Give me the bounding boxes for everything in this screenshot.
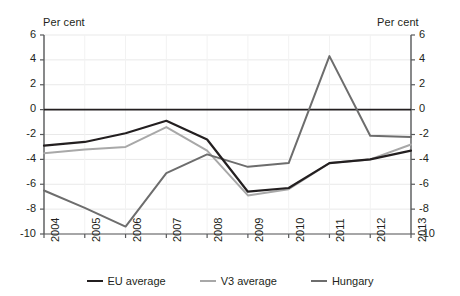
legend-item-label: V3 average	[221, 275, 277, 287]
y-axis-tick-label: -2	[14, 127, 36, 139]
y-axis-tick-label: 4	[14, 52, 36, 64]
chart-figure: Per cent Per cent 6420-2-4-6-8-10 6420-2…	[0, 0, 460, 296]
series-line-eu-average	[44, 121, 411, 192]
left-axis-unit-label: Per cent	[43, 16, 85, 28]
legend-line-icon	[311, 280, 327, 282]
x-axis-tick-label: 2009	[253, 218, 265, 242]
y-axis-tick-label: -10	[14, 227, 36, 239]
legend-item[interactable]: Hungary	[311, 275, 374, 287]
x-axis-tick-label: 2011	[334, 218, 346, 242]
x-axis-tick-label: 2007	[171, 218, 183, 242]
y-axis-tick-label-right: 6	[419, 28, 441, 40]
series-line-hungary	[44, 56, 411, 226]
x-axis-tick-label: 2006	[131, 218, 143, 242]
y-axis-tick-label: 6	[14, 28, 36, 40]
legend-item-label: Hungary	[332, 275, 374, 287]
y-axis-tick-label: 0	[14, 102, 36, 114]
y-axis-tick-label-right: 0	[419, 102, 441, 114]
right-axis-unit-label: Per cent	[377, 16, 419, 28]
legend-line-icon	[200, 280, 216, 282]
x-axis-tick-label: 2012	[375, 218, 387, 242]
y-axis-tick-label-right: -6	[419, 177, 441, 189]
x-axis-tick-label: 2005	[90, 218, 102, 242]
plot-area	[0, 0, 460, 296]
y-axis-tick-label: 2	[14, 77, 36, 89]
y-axis-tick-label-right: 4	[419, 52, 441, 64]
y-axis-tick-label-right: 2	[419, 77, 441, 89]
x-axis-tick-label: 2004	[49, 218, 61, 242]
legend-line-icon	[87, 280, 103, 282]
y-axis-tick-label-right: -2	[419, 127, 441, 139]
y-axis-tick-label: -8	[14, 202, 36, 214]
x-axis-tick-label: 2008	[212, 218, 224, 242]
x-axis-tick-label: 2010	[294, 218, 306, 242]
x-axis-tick-label: 2013	[416, 218, 428, 242]
legend-item[interactable]: V3 average	[200, 275, 277, 287]
legend-item[interactable]: EU average	[87, 275, 166, 287]
y-axis-tick-label: -4	[14, 152, 36, 164]
y-axis-tick-label-right: -4	[419, 152, 441, 164]
y-axis-tick-label-right: -8	[419, 202, 441, 214]
chart-legend: EU averageV3 averageHungary	[0, 270, 460, 292]
y-axis-tick-label: -6	[14, 177, 36, 189]
legend-item-label: EU average	[108, 275, 166, 287]
